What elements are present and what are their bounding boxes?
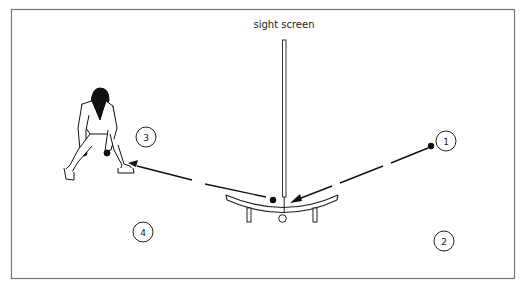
arrowhead-icon bbox=[290, 194, 302, 203]
marker-2: 2 bbox=[434, 231, 454, 251]
ball-rebound-icon bbox=[270, 197, 276, 203]
ball-start-icon bbox=[428, 143, 434, 149]
marker-4: 4 bbox=[133, 222, 153, 242]
outgoing-arrow bbox=[137, 166, 266, 197]
marker-4-label: 4 bbox=[140, 228, 146, 238]
ground-marker-icon bbox=[279, 215, 287, 223]
incoming-arrow bbox=[296, 148, 428, 200]
sight-screen-diagram: sight screen 1 2 3 4 bbox=[0, 0, 527, 290]
marker-2-label: 2 bbox=[441, 237, 447, 247]
marker-3: 3 bbox=[136, 127, 156, 147]
sight-screen-pole bbox=[283, 40, 287, 197]
sight-screen-label: sight screen bbox=[253, 19, 314, 30]
marker-3-label: 3 bbox=[143, 133, 149, 143]
fielder-figure-icon bbox=[64, 88, 134, 180]
marker-1-label: 1 bbox=[443, 137, 449, 147]
marker-1: 1 bbox=[436, 131, 456, 151]
